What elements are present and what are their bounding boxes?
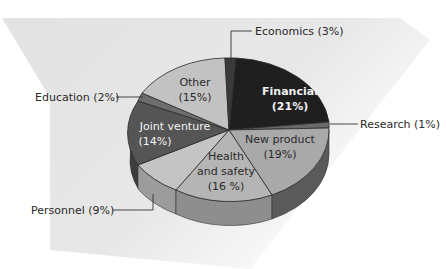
label-new-product-name: New product [245,133,315,146]
label-research: Research (1%) [360,118,440,131]
label-financial-value: (21%) [272,100,308,113]
label-new-product-value: (19%) [263,148,296,161]
label-other-value: (15%) [178,91,211,104]
label-health-line1: Health [208,150,244,163]
label-health-value: (16 %) [208,180,245,193]
label-other-name: Other [179,76,211,89]
pie-chart: Economics (3%) Research (1%) Education (… [0,0,447,269]
label-economics: Economics (3%) [255,25,344,38]
label-personnel: Personnel (9%) [31,204,114,217]
label-education: Education (2%) [35,91,119,104]
label-financial-name: Financial [262,85,318,98]
label-joint-venture-name: Joint venture [139,120,211,133]
label-joint-venture-value: (14%) [138,135,171,148]
label-health-line2: and safety [197,165,256,178]
